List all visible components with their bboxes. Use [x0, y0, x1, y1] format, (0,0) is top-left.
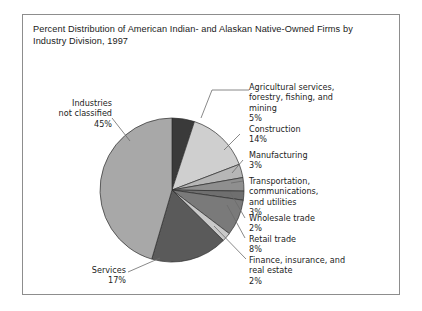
slice-label-finance: Finance, insurance, and real estate 2% [249, 255, 379, 286]
leader-line-services [128, 258, 160, 272]
slice-label-wholesale: Wholesale trade 2% [249, 213, 369, 234]
slice-label-industries: Industries not classified 45% [28, 98, 112, 129]
leader-line-industries [112, 118, 130, 141]
slice-label-retail: Retail trade 8% [249, 234, 369, 255]
chart-page: Percent Distribution of American Indian-… [0, 0, 422, 311]
slice-label-services: Services 17% [38, 265, 126, 286]
slice-label-transportation: Transportation, communications, and util… [249, 176, 369, 218]
leader-line-construction [224, 134, 240, 150]
slice-label-agricultural: Agricultural services, forestry, fishing… [249, 82, 369, 124]
slice-label-manufacturing: Manufacturing 3% [249, 150, 369, 171]
leader-line-agricultural [201, 90, 249, 118]
pie-slice-group [100, 118, 244, 262]
slice-label-construction: Construction 14% [249, 124, 369, 145]
